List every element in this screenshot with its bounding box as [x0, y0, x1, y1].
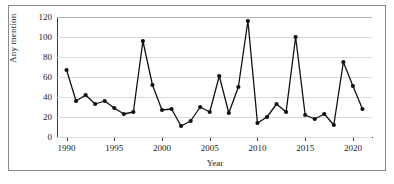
data-point-2011 [265, 115, 269, 119]
data-point-2018 [332, 123, 336, 127]
series-any-mention [57, 17, 372, 137]
x-tick-mark-2010 [257, 138, 258, 141]
data-point-2000 [160, 108, 164, 112]
data-point-2019 [341, 60, 345, 64]
x-axis-title: Year [207, 158, 224, 168]
data-point-1994 [103, 99, 107, 103]
x-tick-label-2015: 2015 [296, 144, 314, 153]
y-axis-title: Any mention [8, 14, 18, 63]
data-point-2006 [217, 74, 221, 78]
data-point-2007 [227, 111, 231, 115]
data-point-2001 [169, 107, 173, 111]
data-point-1993 [93, 102, 97, 106]
data-point-1998 [141, 39, 145, 43]
data-point-1995 [112, 106, 116, 110]
data-point-2002 [179, 124, 183, 128]
data-point-1990 [64, 68, 68, 72]
data-point-2012 [274, 102, 278, 106]
chart-figure: 020406080100120 199019952000200520102015… [0, 0, 394, 184]
data-point-2015 [303, 113, 307, 117]
data-point-1991 [74, 99, 78, 103]
data-point-1992 [84, 93, 88, 97]
data-point-2008 [236, 85, 240, 89]
x-tick-mark-1995 [114, 138, 115, 141]
data-point-2003 [189, 119, 193, 123]
y-axis-title-container: Any mention [30, 17, 42, 137]
x-tick-label-1990: 1990 [58, 144, 76, 153]
data-point-2010 [255, 121, 259, 125]
x-tick-label-2020: 2020 [344, 144, 362, 153]
data-point-2021 [360, 107, 364, 111]
data-point-2017 [322, 112, 326, 116]
x-tick-mark-2020 [353, 138, 354, 141]
data-point-2014 [294, 35, 298, 39]
x-tick-mark-2000 [162, 138, 163, 141]
series-line [67, 21, 363, 126]
data-point-1996 [122, 112, 126, 116]
plot-area [57, 17, 372, 137]
data-point-2004 [198, 105, 202, 109]
x-tick-mark-2005 [210, 138, 211, 141]
data-point-2013 [284, 110, 288, 114]
data-point-1997 [131, 110, 135, 114]
gridline-0 [57, 137, 372, 138]
data-point-1999 [150, 83, 154, 87]
x-tick-label-2010: 2010 [248, 144, 266, 153]
data-point-2005 [208, 110, 212, 114]
data-point-2009 [246, 19, 250, 23]
data-point-2016 [313, 117, 317, 121]
x-tick-label-2005: 2005 [201, 144, 219, 153]
x-tick-mark-1990 [67, 138, 68, 141]
x-tick-mark-2015 [305, 138, 306, 141]
data-point-2020 [351, 84, 355, 88]
x-tick-label-1995: 1995 [105, 144, 123, 153]
x-tick-label-2000: 2000 [153, 144, 171, 153]
